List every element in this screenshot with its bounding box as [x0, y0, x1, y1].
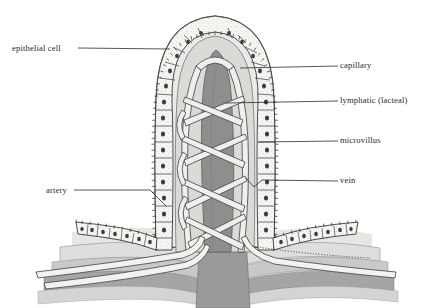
- label-vein: vein: [340, 176, 355, 185]
- villus-figure: [0, 0, 431, 308]
- villus-diagram: epithelial cell artery capillary lymphat…: [0, 0, 431, 308]
- label-capillary: capillary: [340, 61, 371, 70]
- label-epithelial-cell: epithelial cell: [12, 44, 61, 53]
- label-lymphatic: lymphatic (lacteal): [340, 96, 408, 105]
- leader-epithelial-cell: [78, 48, 170, 49]
- label-microvillus: microvillus: [340, 136, 381, 145]
- leader-artery: [74, 190, 166, 206]
- label-artery: artery: [46, 186, 67, 195]
